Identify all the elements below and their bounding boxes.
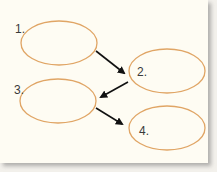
arrow-1-to-2 xyxy=(96,51,124,73)
arrow-3-to-4 xyxy=(96,108,122,124)
step-4-label: 4. xyxy=(139,124,149,138)
step-1-oval xyxy=(21,21,97,65)
step-1-label: 1. xyxy=(15,22,25,36)
step-2-label: 2. xyxy=(137,65,147,79)
sequence-diagram: 1. 2. 3. 4. xyxy=(0,0,215,171)
arrow-2-to-3 xyxy=(101,82,128,97)
step-3-oval xyxy=(20,79,96,123)
step-3-label: 3. xyxy=(14,83,24,97)
